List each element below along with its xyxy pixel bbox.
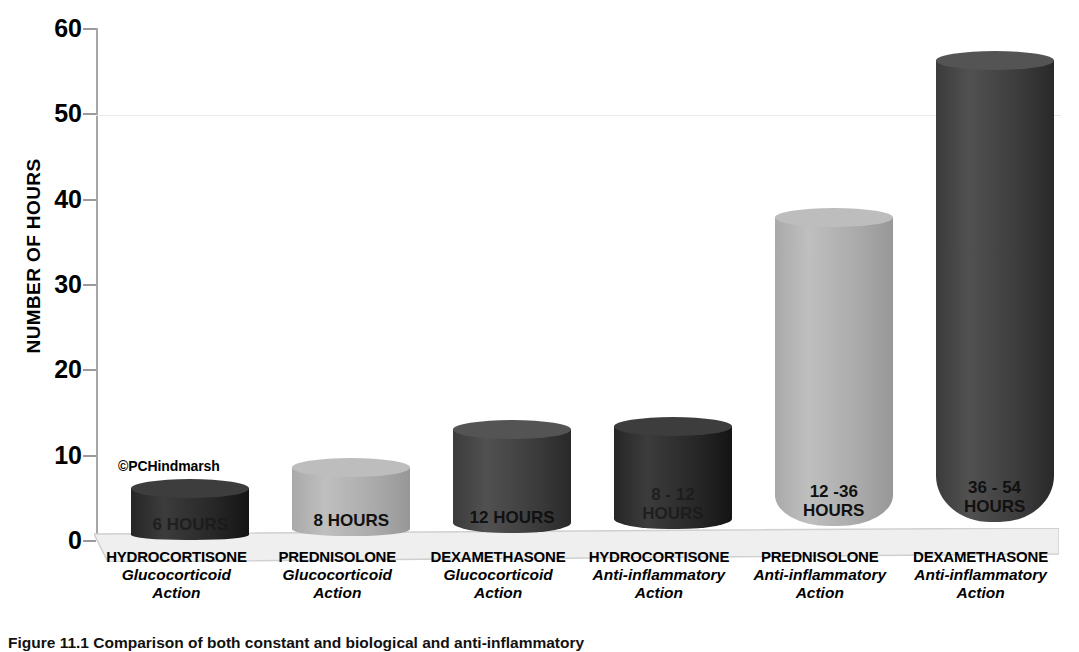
x-axis-category: PREDNISOLONEGlucocorticoidAction	[251, 548, 424, 602]
category-drug-name: DEXAMETHASONE	[412, 548, 585, 566]
bar: 8 HOURS	[292, 458, 410, 536]
x-axis-category: DEXAMETHASONEGlucocorticoidAction	[412, 548, 585, 602]
category-action-type: Anti-inflammatory	[894, 566, 1067, 584]
y-tick-mark	[83, 369, 96, 371]
category-drug-name: HYDROCORTISONE	[573, 548, 746, 566]
bar-top-ellipse	[131, 479, 249, 498]
x-axis-category: HYDROCORTISONEAnti-inflammatoryAction	[573, 548, 746, 602]
bar-body	[936, 60, 1054, 522]
category-drug-name: PREDNISOLONE	[733, 548, 906, 566]
category-action-word: Action	[573, 584, 746, 602]
y-tick-mark	[83, 455, 96, 457]
y-axis-title: NUMBER OF HOURS	[23, 126, 45, 386]
bar: 6 HOURS	[131, 479, 249, 540]
y-tick-mark	[83, 284, 96, 286]
bar-value-label: 8 HOURS	[292, 511, 410, 530]
bar-body	[775, 217, 893, 525]
y-tick-mark	[83, 113, 96, 115]
bar: 8 - 12 HOURS	[614, 417, 732, 529]
bar: 36 - 54 HOURS	[936, 51, 1054, 522]
category-drug-name: HYDROCORTISONE	[90, 548, 263, 566]
category-drug-name: DEXAMETHASONE	[894, 548, 1067, 566]
plot-area: 0102030405060 6 HOURS8 HOURS12 HOURS8 - …	[96, 28, 1061, 540]
y-tick-mark	[83, 199, 96, 201]
bar-value-label: 36 - 54 HOURS	[936, 478, 1054, 516]
bar-top-ellipse	[614, 417, 732, 436]
category-action-word: Action	[412, 584, 585, 602]
category-action-word: Action	[894, 584, 1067, 602]
category-action-type: Glucocorticoid	[90, 566, 263, 584]
bar-value-label: 6 HOURS	[131, 515, 249, 534]
category-action-type: Anti-inflammatory	[573, 566, 746, 584]
bar-value-label: 12 -36 HOURS	[775, 482, 893, 520]
bar-value-label: 12 HOURS	[453, 508, 571, 527]
x-axis-category: PREDNISOLONEAnti-inflammatoryAction	[733, 548, 906, 602]
x-axis-category-labels: HYDROCORTISONEGlucocorticoidActionPREDNI…	[96, 548, 1061, 620]
bar-top-ellipse	[936, 51, 1054, 70]
category-action-type: Glucocorticoid	[412, 566, 585, 584]
category-action-word: Action	[90, 584, 263, 602]
copyright-annotation: ©PCHindmarsh	[118, 458, 220, 474]
x-axis-category: DEXAMETHASONEAnti-inflammatoryAction	[894, 548, 1067, 602]
y-tick-mark	[83, 28, 96, 30]
category-action-word: Action	[251, 584, 424, 602]
figure-caption: Figure 11.1 Comparison of both constant …	[8, 634, 1073, 652]
bar: 12 HOURS	[453, 420, 571, 532]
category-action-type: Anti-inflammatory	[733, 566, 906, 584]
category-drug-name: PREDNISOLONE	[251, 548, 424, 566]
category-action-type: Glucocorticoid	[251, 566, 424, 584]
bar-value-label: 8 - 12 HOURS	[614, 485, 732, 523]
bar: 12 -36 HOURS	[775, 208, 893, 525]
bar-series: 6 HOURS8 HOURS12 HOURS8 - 12 HOURS12 -36…	[96, 28, 1061, 540]
category-action-word: Action	[733, 584, 906, 602]
x-axis-category: HYDROCORTISONEGlucocorticoidAction	[90, 548, 263, 602]
